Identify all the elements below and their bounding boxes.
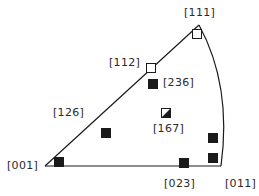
marker-right-upper-filled-square-icon <box>209 134 218 143</box>
stereographic-triangle-diagram <box>0 0 259 196</box>
label-011: [011] <box>225 178 256 189</box>
label-001: [001] <box>7 160 38 171</box>
triangle-outline <box>45 25 224 166</box>
marker-236-filled-square-icon <box>149 80 158 89</box>
marker-001-filled-square-icon <box>55 158 64 167</box>
edge-111-011-arc <box>199 25 224 166</box>
label-167: [167] <box>153 123 184 134</box>
marker-023-filled-square-icon <box>180 159 189 168</box>
marker-126-region-filled-square-icon <box>102 129 111 138</box>
label-236: [236] <box>163 77 194 88</box>
orientation-markers <box>55 30 218 168</box>
marker-111-open-square-icon <box>193 30 202 39</box>
marker-right-lower-filled-square-icon <box>209 154 218 163</box>
label-111: [111] <box>184 7 215 18</box>
marker-167-half-square-icon <box>162 109 171 118</box>
edge-001-111 <box>45 25 199 166</box>
label-126: [126] <box>53 107 84 118</box>
label-112: [112] <box>109 57 140 68</box>
label-023: [023] <box>164 178 195 189</box>
marker-112-open-square-icon <box>147 64 156 73</box>
